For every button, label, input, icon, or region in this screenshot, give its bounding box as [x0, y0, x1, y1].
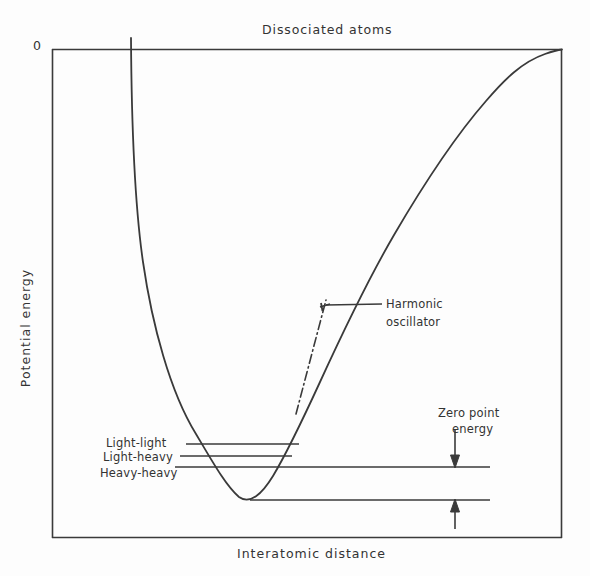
energy-level-label-heavy-heavy: Heavy-heavy [100, 466, 178, 480]
plot-canvas [0, 0, 590, 576]
harmonic-oscillator-tick-stub-icon [321, 303, 323, 311]
y-axis-zero-tick-label: 0 [33, 38, 41, 53]
y-axis-label: Potential energy [18, 269, 33, 387]
axis-frame [52, 49, 562, 538]
zero-point-energy-annotation-line1: Zero point [438, 406, 499, 420]
morse-potential-curve [131, 38, 562, 500]
chart-top-title: Dissociated atoms [262, 22, 392, 37]
zero-point-up-arrow-head-icon [451, 499, 460, 512]
zero-point-energy-annotation-line2: energy [452, 422, 493, 436]
zero-point-reference-lines [250, 467, 490, 500]
harmonic-oscillator-leader-line [326, 304, 382, 305]
y-axis-label-container: Potential energy [14, 238, 36, 418]
x-axis-label: Interatomic distance [237, 546, 386, 561]
harmonic-oscillator-annotation-line1: Harmonic [386, 297, 443, 311]
harmonic-oscillator-annotation-line2: oscillator [386, 315, 440, 329]
zero-point-down-arrow-head-icon [451, 455, 460, 468]
energy-level-label-light-heavy: Light-heavy [103, 450, 173, 464]
zero-point-arrows [451, 430, 460, 529]
harmonic-oscillator-dashdot-line [296, 300, 326, 414]
potential-energy-diagram: Dissociated atoms 0 Potential energy Int… [0, 0, 590, 576]
energy-level-label-light-light: Light-light [106, 436, 167, 450]
